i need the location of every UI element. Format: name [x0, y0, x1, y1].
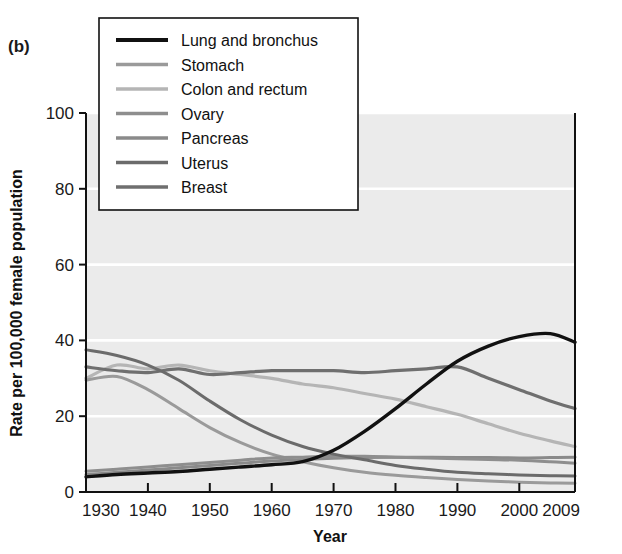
x-tick-label-1930: 1930: [82, 501, 120, 520]
y-axis-title: Rate per 100,000 female population: [8, 169, 25, 437]
x-tick-label-2009: 2009: [542, 501, 580, 520]
legend-label-ovary: Ovary: [181, 106, 224, 123]
x-tick-label-1970: 1970: [315, 501, 353, 520]
y-tick-label-40: 40: [55, 331, 74, 350]
x-tick-label-1980: 1980: [377, 501, 415, 520]
x-tick-label-1950: 1950: [191, 501, 229, 520]
panel-label: (b): [8, 37, 30, 56]
legend-label-colon-and-rectum: Colon and rectum: [181, 81, 307, 98]
x-axis-title: Year: [313, 528, 347, 545]
x-tick-label-1940: 1940: [129, 501, 167, 520]
figure-panel-b: 193019401950196019701980199020002009 020…: [0, 0, 622, 554]
legend-label-breast: Breast: [181, 179, 228, 196]
x-tick-label-1960: 1960: [253, 501, 291, 520]
legend-label-uterus: Uterus: [181, 155, 228, 172]
y-tick-label-0: 0: [65, 483, 74, 502]
legend-label-lung-and-bronchus: Lung and bronchus: [181, 32, 318, 49]
x-tick-label-2000: 2000: [500, 501, 538, 520]
y-tick-label-20: 20: [55, 407, 74, 426]
x-tick-label-1990: 1990: [438, 501, 476, 520]
legend: Lung and bronchusStomachColon and rectum…: [99, 18, 358, 210]
y-tick-label-80: 80: [55, 180, 74, 199]
y-tick-label-100: 100: [46, 104, 74, 123]
line-chart: 193019401950196019701980199020002009 020…: [0, 0, 622, 554]
y-tick-label-60: 60: [55, 256, 74, 275]
legend-label-stomach: Stomach: [181, 57, 244, 74]
legend-label-pancreas: Pancreas: [181, 130, 249, 147]
